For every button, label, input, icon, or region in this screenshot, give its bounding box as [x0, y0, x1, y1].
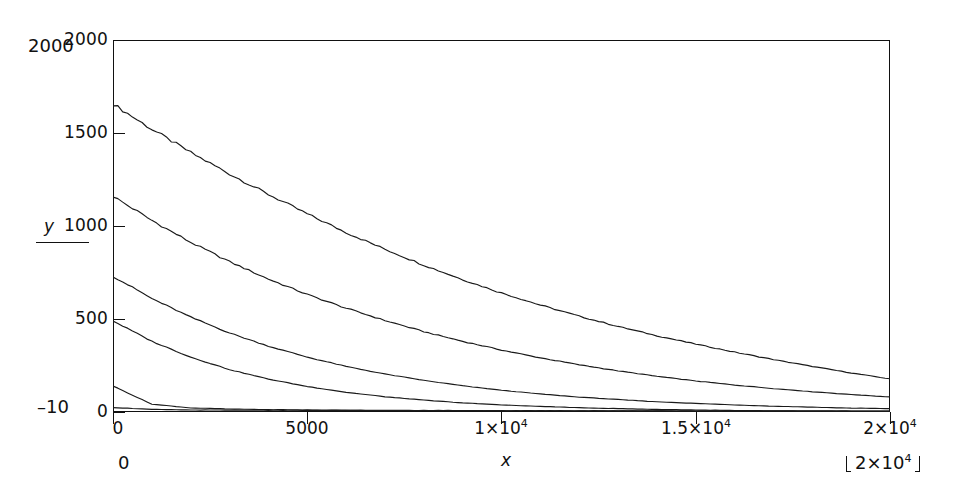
- curves-layer: [113, 40, 890, 412]
- y-tick-2000: [113, 40, 125, 41]
- x-tick-label-20000-text: 2×104: [863, 418, 917, 438]
- data-curve: [113, 321, 890, 411]
- figure-canvas: 2000 1500 1000 500 0 0 5000 1×104 1.5×10…: [0, 0, 953, 499]
- x-upper-limit-text: 2×104: [855, 452, 911, 473]
- y-tick-label-1000-text: 1000: [64, 215, 108, 235]
- bracket-right-icon: [915, 456, 920, 472]
- y-tick-0: [113, 412, 125, 413]
- y-axis-label: y: [44, 216, 54, 236]
- bracket-left-icon: [846, 456, 851, 472]
- data-curve: [113, 197, 890, 397]
- data-curve: [113, 106, 890, 379]
- y-tick-1000: [113, 226, 125, 227]
- x-tick-label-5000-text: 5000: [285, 418, 328, 438]
- x-lower-limit-annotation: 0: [118, 452, 129, 473]
- y-upper-limit-annotation: 2000: [28, 35, 74, 56]
- y-tick-label-1500-text: 1500: [64, 122, 108, 142]
- y-tick-1500: [113, 133, 125, 134]
- y-tick-label-500-text: 500: [75, 308, 108, 328]
- x-lower-limit-text: 0: [118, 452, 129, 473]
- x-upper-limit-annotation: 2×104: [855, 452, 911, 473]
- y-lower-limit-annotation: –10: [37, 396, 69, 417]
- y-tick-label-0-text: 0: [97, 401, 108, 421]
- x-axis-label: x: [501, 450, 511, 470]
- y-upper-limit-text: 2000: [28, 35, 74, 56]
- y-lower-limit-text: –10: [37, 396, 69, 417]
- x-tick-label-15000-text: 1.5×104: [661, 418, 731, 438]
- y-tick-500: [113, 319, 125, 320]
- x-tick-label-10000-text: 1×104: [474, 418, 528, 438]
- x-tick-label-0-text: 0: [113, 418, 124, 438]
- y-axis-label-rule: [36, 242, 89, 243]
